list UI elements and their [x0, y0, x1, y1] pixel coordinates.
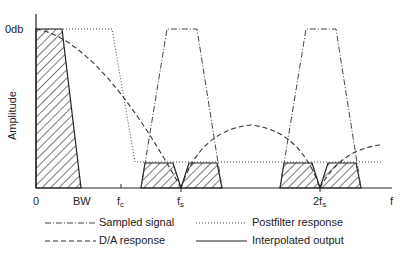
- image-spectrum-fs-upper: [181, 163, 222, 188]
- legend-interpolated-output: Interpolated output: [252, 235, 344, 246]
- legend-sampled-signal: Sampled signal: [99, 217, 174, 228]
- frequency-response-diagram: [0, 0, 409, 261]
- image-spectrum-fs-lower: [141, 163, 181, 188]
- x-tick-zero: 0: [33, 196, 39, 207]
- legend-postfilter-response: Postfilter response: [252, 217, 343, 228]
- baseband-spectrum: [36, 29, 81, 188]
- x-tick-fc: fc: [117, 196, 124, 209]
- x-tick-2fs: 2fs: [313, 196, 326, 209]
- image-spectrum-2fs-upper: [320, 163, 361, 188]
- y-axis-label: Amplitude: [6, 91, 18, 140]
- legend-da-response: D/A response: [99, 235, 165, 246]
- x-axis-label: f: [390, 196, 393, 207]
- postfilter-response-curve: [36, 29, 381, 162]
- image-spectrum-2fs-lower: [280, 163, 320, 188]
- x-tick-bw: BW: [73, 196, 91, 207]
- y-axis-top-tick: 0db: [5, 24, 23, 35]
- x-tick-fs: fs: [177, 196, 184, 209]
